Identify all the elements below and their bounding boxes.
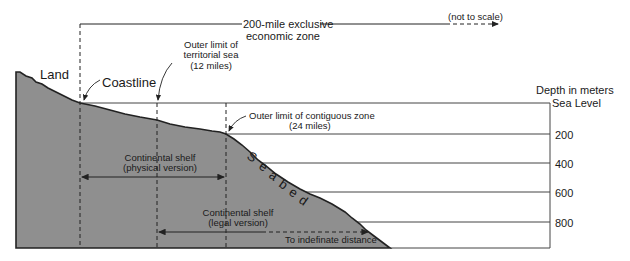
eez-label-line2: economic zone xyxy=(243,30,323,42)
eez-label-line1: 200-mile exclusive xyxy=(243,18,323,30)
territorial-sea-label: Outer limit of territorial sea (12 miles… xyxy=(178,40,244,71)
coastline-label: Coastline xyxy=(102,76,156,90)
territorial-line3: (12 miles) xyxy=(178,61,244,71)
eez-label: 200-mile exclusive economic zone xyxy=(243,18,323,42)
physical-shelf-label: Continental shelf (physical version) xyxy=(110,153,210,174)
coastline-leader xyxy=(84,80,100,100)
sea-level-label: Sea Level xyxy=(552,97,601,109)
land-label: Land xyxy=(40,68,69,82)
contiguous-zone-label: Outer limit of contiguous zone (24 miles… xyxy=(249,111,375,132)
legal-shelf-label: Continental shelf (legal version) xyxy=(188,208,288,229)
contiguous-leader xyxy=(229,116,246,131)
depth-tick-600: 600 xyxy=(555,187,573,199)
depth-axis-title: Depth in meters xyxy=(536,84,614,96)
contiguous-line2: (24 miles) xyxy=(249,121,375,131)
not-to-scale-note: (not to scale) xyxy=(448,12,503,22)
legal-shelf-line2: (legal version) xyxy=(188,218,288,228)
depth-tick-400: 400 xyxy=(555,158,573,170)
depth-tick-800: 800 xyxy=(555,217,573,229)
depth-tick-200: 200 xyxy=(555,129,573,141)
territorial-leader xyxy=(158,63,172,100)
indefinite-distance-label: To indefinate distance xyxy=(285,235,377,245)
physical-shelf-line2: (physical version) xyxy=(110,163,210,173)
